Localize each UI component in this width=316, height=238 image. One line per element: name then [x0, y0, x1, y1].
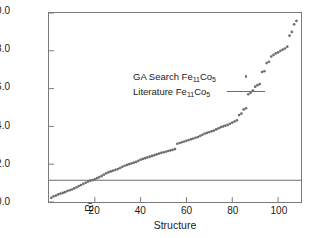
data-point [169, 149, 172, 152]
data-point [158, 152, 161, 155]
data-point [80, 184, 83, 187]
plot-area: GA Search Fe11Co5 Literature Fe11Co5 [48, 12, 302, 203]
data-point [128, 163, 131, 166]
data-point [295, 20, 298, 23]
data-point [192, 137, 195, 140]
data-point [114, 169, 117, 172]
data-point [290, 31, 293, 34]
data-point [224, 124, 227, 127]
line-marker-icon [227, 91, 265, 92]
legend: GA Search Fe11Co5 Literature Fe11Co5 [133, 69, 267, 99]
data-point [181, 141, 184, 144]
data-point [171, 149, 174, 152]
data-point [178, 142, 181, 145]
dot-marker-icon [245, 75, 248, 78]
data-point [226, 124, 229, 127]
data-point [265, 62, 268, 65]
x-tick-label: 20 [89, 205, 100, 216]
data-point [245, 107, 248, 110]
data-point [217, 127, 220, 130]
data-point [215, 128, 218, 131]
data-point [187, 139, 190, 142]
x-tick-label: 80 [227, 205, 238, 216]
legend-item-ga-search: GA Search Fe11Co5 [133, 69, 267, 84]
data-point [201, 133, 204, 136]
data-point [274, 52, 277, 55]
data-point [281, 48, 284, 51]
data-point [107, 171, 110, 174]
data-point [151, 155, 154, 158]
figure-container: Relative Formation Energy (meV/atom) 0.0… [0, 0, 316, 238]
data-point [219, 126, 222, 129]
data-point [55, 194, 58, 197]
data-point [57, 193, 60, 196]
data-point [112, 169, 115, 172]
data-point [52, 195, 55, 198]
data-point [75, 186, 78, 189]
data-point [236, 119, 239, 122]
data-point [123, 164, 126, 167]
data-point [194, 136, 197, 139]
data-point [272, 54, 275, 57]
data-point [293, 23, 296, 26]
data-point [288, 34, 291, 37]
data-point [77, 185, 80, 188]
data-point [277, 51, 280, 54]
data-point [203, 132, 206, 135]
legend-item-literature: Literature Fe11Co5 [133, 84, 267, 99]
data-point [84, 181, 87, 184]
data-point [155, 153, 158, 156]
data-point [268, 60, 271, 63]
x-axis-label: Structure [48, 219, 302, 231]
legend-key-line-marker [225, 91, 267, 92]
data-point [144, 157, 147, 160]
data-point [164, 150, 167, 153]
data-point [142, 158, 145, 161]
data-point [160, 152, 163, 155]
data-point [132, 161, 135, 164]
data-point [64, 191, 67, 194]
data-point [153, 154, 156, 157]
data-point [61, 192, 64, 195]
data-point [66, 190, 69, 193]
data-point [233, 120, 236, 123]
data-point [59, 192, 62, 195]
data-point [121, 166, 124, 169]
data-point [185, 139, 188, 142]
data-point [229, 122, 232, 125]
data-point [240, 112, 243, 115]
data-point [82, 183, 85, 186]
data-point [126, 164, 129, 167]
data-point [231, 121, 234, 124]
ga-search-points [50, 20, 298, 200]
data-point [135, 161, 138, 164]
data-point [242, 108, 245, 111]
data-point [213, 129, 216, 132]
data-point [174, 148, 177, 151]
data-point [100, 175, 103, 178]
data-point [162, 151, 165, 154]
data-point [105, 172, 108, 175]
legend-label-ga-search: GA Search Fe11Co5 [133, 71, 225, 83]
data-point [199, 135, 202, 138]
plot-canvas [49, 13, 301, 202]
data-point [139, 158, 142, 161]
data-point [238, 114, 241, 117]
data-point [119, 167, 122, 170]
legend-label-literature: Literature Fe11Co5 [133, 86, 225, 98]
data-point [137, 159, 140, 162]
data-point [68, 189, 71, 192]
data-point [103, 173, 106, 176]
data-point [197, 136, 200, 139]
data-point [110, 170, 113, 173]
x-tick-label: 100 [271, 205, 288, 216]
data-point [98, 176, 101, 179]
data-point [176, 142, 179, 145]
data-point [279, 49, 282, 52]
data-point [206, 131, 209, 134]
data-point [96, 177, 99, 180]
x-tick-label: 40 [135, 205, 146, 216]
x-tick-label: 60 [181, 205, 192, 216]
data-point [210, 130, 213, 133]
data-point [116, 168, 119, 171]
